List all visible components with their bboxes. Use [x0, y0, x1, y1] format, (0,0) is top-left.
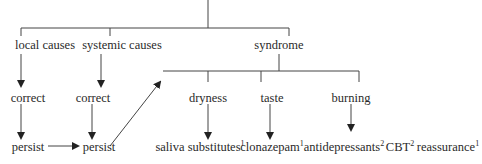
node-taste: taste	[261, 91, 284, 105]
node-antidepressants: antidepressants2	[304, 140, 384, 154]
node-correct-local: correct	[11, 91, 46, 105]
node-burning: burning	[332, 91, 371, 105]
node-persist-local: persist	[12, 140, 45, 154]
node-saliva-substitutes: saliva substitutes1	[155, 140, 244, 154]
reference-marker: 1	[475, 139, 479, 148]
reference-marker: 2	[410, 139, 414, 148]
node-reassurance: reassurance1	[417, 140, 479, 154]
node-dryness: dryness	[189, 91, 227, 105]
node-systemic-causes: systemic causes	[82, 38, 162, 52]
node-persist-systemic: persist	[83, 140, 116, 154]
node-correct-systemic: correct	[76, 91, 111, 105]
reference-marker: 2	[380, 139, 384, 148]
node-local-causes: local causes	[15, 38, 75, 52]
node-syndrome: syndrome	[254, 38, 303, 52]
flow-diagram: local causes systemic causes syndrome co…	[0, 0, 482, 164]
node-clonazepam: clonazepam1	[240, 140, 304, 154]
node-cbt: CBT2	[386, 140, 414, 154]
